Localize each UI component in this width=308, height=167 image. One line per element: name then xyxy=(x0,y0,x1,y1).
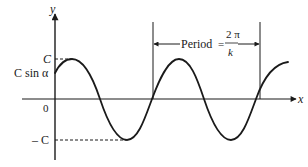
amplitude-label-neg: – C xyxy=(31,133,49,147)
amplitude-label-pos: C xyxy=(43,52,52,66)
period-label: Period xyxy=(181,37,212,51)
phase-intercept-label: C sin α xyxy=(14,66,49,80)
period-equals: = xyxy=(218,38,224,50)
period-denominator: k xyxy=(228,46,234,58)
sinusoid-diagram: y x 0 C C sin α – C Period = 2 π k xyxy=(0,0,308,167)
x-axis-label: x xyxy=(297,92,304,106)
origin-label: 0 xyxy=(43,102,49,114)
y-axis-label: y xyxy=(49,2,56,16)
period-numerator: 2 π xyxy=(226,28,240,40)
